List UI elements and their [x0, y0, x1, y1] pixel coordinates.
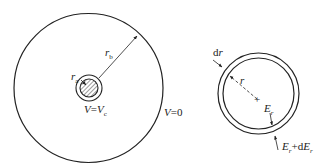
coaxial-sphere-figure: rb ra V=Vc V=0: [14, 14, 183, 163]
spherical-shell-element-figure: + dr r Er Er+dEr: [213, 46, 313, 155]
dr-arrow: [213, 60, 222, 67]
diagram-canvas: rb ra V=Vc V=0 + dr r Er Er+dEr: [0, 0, 332, 168]
outer-radius-label: rb: [105, 46, 113, 61]
inner-field-label: Er: [263, 102, 274, 117]
outer-potential-label: V=0: [164, 106, 183, 118]
outer-field-arrow: [275, 136, 278, 150]
outer-field-label: Er+dEr: [281, 140, 313, 155]
shell-thickness-label: dr: [213, 46, 224, 58]
inner-radius-label: ra: [71, 70, 79, 85]
inner-potential-label: V=Vc: [84, 103, 107, 118]
center-marker: +: [254, 93, 260, 105]
radius-label: r: [240, 74, 245, 86]
